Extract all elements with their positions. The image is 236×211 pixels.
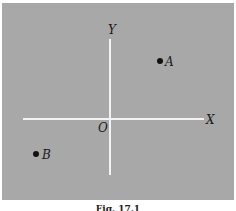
figure-caption: Fig. 17.1 [0,203,236,211]
origin-label: O [98,122,108,134]
point-b-marker [33,151,39,157]
x-axis-label: X [206,114,215,126]
y-axis-line [109,39,111,175]
y-axis-label: Y [108,24,116,36]
point-a-label: A [165,56,174,68]
diagram-panel [2,3,234,200]
point-b-label: B [42,149,51,161]
point-a-marker [157,58,163,64]
x-axis-line [23,118,204,120]
